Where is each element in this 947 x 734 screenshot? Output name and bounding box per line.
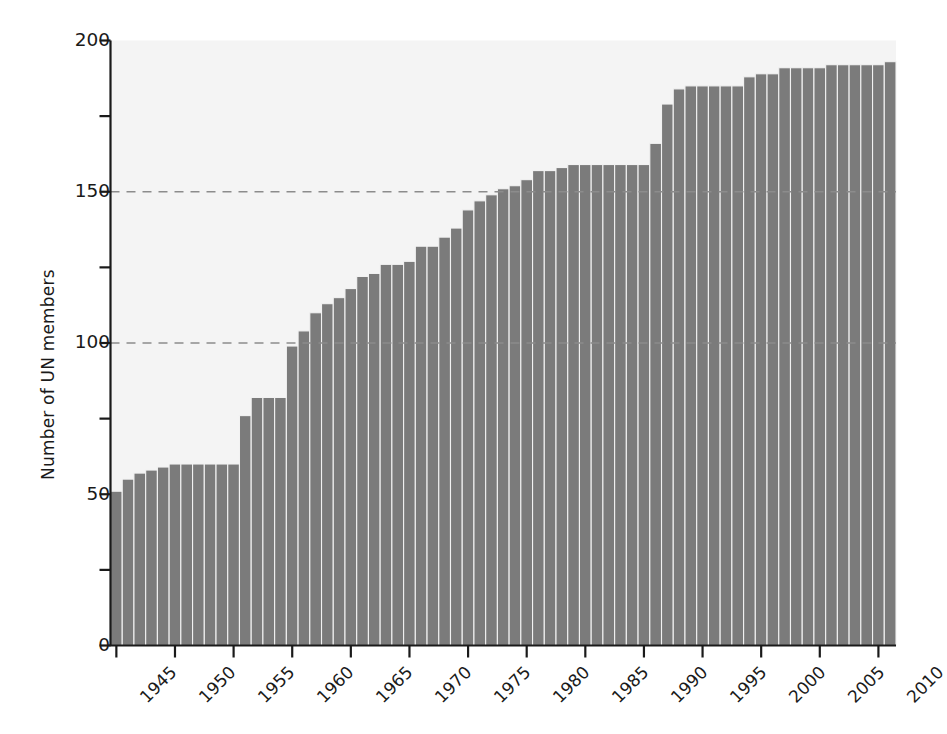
y-tick-label-200: 200 [52, 29, 110, 50]
bar [204, 464, 216, 646]
bar [837, 65, 849, 646]
bar [626, 165, 638, 646]
bar [638, 165, 650, 646]
bar [427, 246, 439, 645]
bar [263, 397, 275, 645]
y-tick-label-50: 50 [52, 483, 110, 504]
bar [251, 397, 263, 645]
bar [146, 470, 158, 645]
bar [697, 86, 709, 646]
bar [603, 165, 615, 646]
bar [404, 261, 416, 645]
bar [216, 464, 228, 646]
bar [861, 65, 873, 646]
bar [650, 143, 662, 645]
bar [720, 86, 732, 646]
bar [275, 397, 287, 645]
bar [333, 298, 345, 646]
bar [286, 346, 298, 645]
y-tick-label-100: 100 [52, 331, 110, 352]
bar [521, 180, 533, 646]
bar [568, 165, 580, 646]
bar [615, 165, 627, 646]
bar [556, 168, 568, 646]
bar [322, 304, 334, 646]
bar [533, 171, 545, 646]
bar [544, 171, 556, 646]
bar [193, 464, 205, 646]
bar [134, 473, 146, 645]
bar [392, 264, 404, 645]
bar [228, 464, 240, 646]
bar [873, 65, 885, 646]
bar [591, 165, 603, 646]
bar [181, 464, 193, 646]
bar [357, 276, 369, 645]
bar [884, 62, 896, 646]
bar [708, 86, 720, 646]
bar [169, 464, 181, 646]
bar [462, 210, 474, 646]
bar [111, 491, 123, 645]
y-tick-label-150: 150 [52, 180, 110, 201]
bar [849, 65, 861, 646]
y-axis-title: Number of UN members [38, 269, 58, 480]
y-tick-label-0: 0 [52, 634, 110, 655]
bar [298, 331, 310, 646]
bar [579, 165, 591, 646]
bar [122, 479, 134, 645]
bar [310, 313, 322, 646]
bar [497, 189, 509, 646]
bar [450, 228, 462, 645]
bar [486, 195, 498, 646]
bar [380, 264, 392, 645]
bar [826, 65, 838, 646]
bar [802, 68, 814, 646]
bar [415, 246, 427, 645]
bar [685, 86, 697, 646]
bar [673, 89, 685, 646]
bar [239, 416, 251, 646]
bar [345, 289, 357, 646]
bar [814, 68, 826, 646]
bar [157, 467, 169, 645]
bar [755, 74, 767, 646]
bar [732, 86, 744, 646]
bar [744, 77, 756, 646]
bar [790, 68, 802, 646]
bar [474, 201, 486, 646]
bar [368, 273, 380, 645]
bar [767, 74, 779, 646]
bar [779, 68, 791, 646]
bar [662, 104, 674, 645]
bar [439, 237, 451, 645]
bar [509, 186, 521, 646]
